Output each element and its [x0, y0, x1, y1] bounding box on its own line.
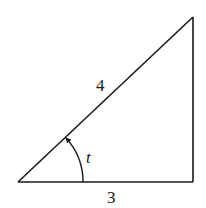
- triangle: [18, 17, 193, 182]
- triangle-diagram: 4 3 t: [0, 0, 206, 208]
- base-label: 3: [107, 188, 116, 207]
- angle-arc-arrow-icon: [66, 138, 83, 182]
- hypotenuse-side: [18, 17, 193, 182]
- hypotenuse-label: 4: [96, 76, 105, 95]
- angle-label: t: [86, 148, 92, 167]
